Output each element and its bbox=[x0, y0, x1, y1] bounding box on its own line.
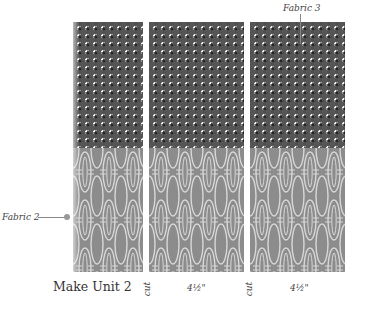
measurement-label-1: 4½" bbox=[187, 283, 206, 293]
measurement-label-2: 4½" bbox=[290, 283, 309, 293]
fabric-2-leader-line bbox=[38, 217, 66, 218]
fabric-3-label: Fabric 3 bbox=[283, 3, 321, 13]
fabric-3-leader-line bbox=[300, 14, 301, 44]
fabric-strip-1 bbox=[73, 22, 143, 272]
fabric-strip-3 bbox=[250, 22, 345, 272]
fabric-3-section bbox=[73, 22, 143, 148]
fabric-2-label: Fabric 2 bbox=[2, 212, 40, 222]
diagram-title: Make Unit 2 bbox=[53, 279, 132, 294]
fabric-2-leader-dot bbox=[64, 214, 70, 220]
fabric-2-section bbox=[250, 148, 345, 272]
fabric-strip-2 bbox=[149, 22, 244, 272]
fabric-3-section bbox=[149, 22, 244, 148]
fabric-2-section bbox=[73, 148, 143, 272]
cut-label-1: cut bbox=[142, 282, 152, 296]
cut-label-2: cut bbox=[244, 282, 254, 296]
fade-edge bbox=[69, 22, 79, 272]
fabric-2-section bbox=[149, 148, 244, 272]
fabric-3-section bbox=[250, 22, 345, 148]
